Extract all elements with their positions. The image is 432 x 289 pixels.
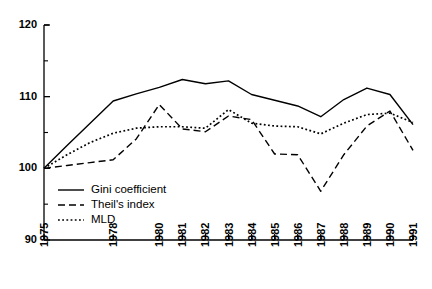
x-tick-label: 1986 xyxy=(292,223,304,247)
y-tick-label: 90 xyxy=(25,233,37,245)
x-tick-label: 1975 xyxy=(38,223,50,247)
x-tick-label: 1990 xyxy=(384,223,396,247)
x-tick-label: 1989 xyxy=(361,223,373,247)
chart-container: 9010011012019751978198019811982198319841… xyxy=(0,0,432,289)
y-tick-label: 110 xyxy=(19,90,37,102)
x-tick-label: 1985 xyxy=(269,223,281,247)
x-tick-label: 1983 xyxy=(223,223,235,247)
series-line-theil-s-index xyxy=(44,105,413,192)
line-chart: 9010011012019751978198019811982198319841… xyxy=(0,0,432,289)
y-tick-label: 120 xyxy=(19,18,37,30)
legend-label-1: Gini coefficient xyxy=(91,183,167,195)
x-tick-label: 1982 xyxy=(199,223,211,247)
legend-label-2: Theil's index xyxy=(91,198,155,210)
x-tick-label: 1981 xyxy=(176,223,188,247)
y-tick-label: 100 xyxy=(19,161,37,173)
series-line-gini-coefficient xyxy=(44,79,413,168)
x-tick-label: 1978 xyxy=(107,223,119,247)
x-tick-label: 1991 xyxy=(407,223,419,247)
x-tick-label: 1988 xyxy=(338,223,350,247)
x-tick-label: 1987 xyxy=(315,223,327,247)
x-tick-label: 1980 xyxy=(153,223,165,247)
x-tick-label: 1984 xyxy=(246,222,258,247)
legend-label-3: MLD xyxy=(91,213,115,225)
series-line-mld xyxy=(44,110,413,169)
